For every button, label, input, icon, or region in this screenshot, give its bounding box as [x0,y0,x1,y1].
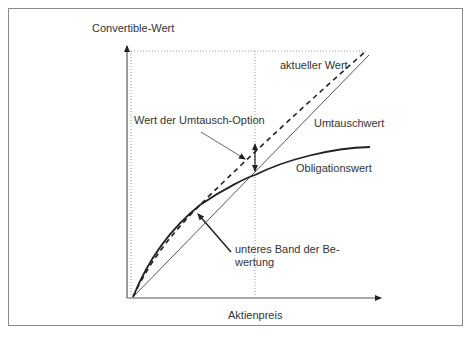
y-axis-label: Convertible-Wert [92,22,174,34]
diagram-canvas: Convertible-Wert Aktienpreis aktueller W… [0,0,474,346]
x-axis-label: Aktienpreis [228,309,283,321]
option-pointer-line [201,132,245,159]
current-value-label: aktueller Wert [280,59,348,71]
lower-bound-pointer-line [198,214,231,252]
option-value-label: Wert der Umtausch-Option [134,114,265,126]
bond-value-label: Obligationswert [296,162,372,174]
lower-bound-label-line1: unteres Band der Be- [235,243,340,255]
lower-bound-label-line2: wertung [234,256,274,268]
conversion-value-label: Umtauschwert [314,117,384,129]
